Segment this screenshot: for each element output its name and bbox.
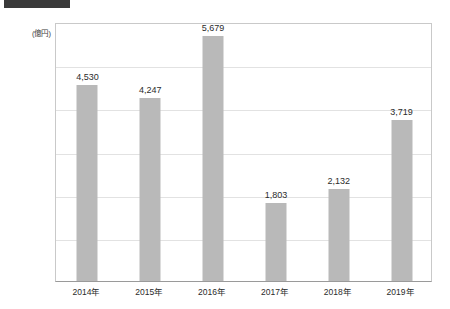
x-axis: 2014年2015年2016年2017年2018年2019年 [55,287,432,303]
bar-chart: 4,5304,2475,6791,8032,1323,719 01,0002,0… [0,0,450,309]
x-tick-label: 2018年 [306,287,369,298]
x-tick-label: 2017年 [244,287,307,298]
x-tick-label: 2015年 [118,287,181,298]
x-tick-label: 2014年 [55,287,118,298]
x-tick-label: 2016年 [181,287,244,298]
y-axis: 01,0002,0003,0004,0005,0006,000 [0,0,450,309]
x-tick-label: 2019年 [369,287,432,298]
y-axis-unit-label: (億円) [11,29,51,38]
